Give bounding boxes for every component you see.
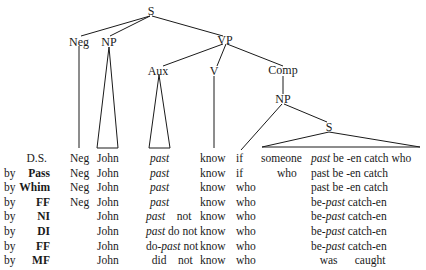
embedded-cell: was caught: [311, 253, 385, 267]
embedded-cell: past be -en catch: [311, 166, 388, 180]
np-cell: John: [97, 195, 119, 209]
by-label: by: [4, 166, 16, 180]
verb-cell: know: [200, 224, 226, 238]
rule-label: Pass: [28, 166, 50, 180]
comp-cell: who: [236, 180, 256, 194]
comp-cell: who: [236, 253, 256, 267]
derivation-row: byNIJohnpast notknowwhobe-past catch-en: [0, 209, 426, 223]
by-label: by: [4, 195, 16, 209]
node-np-comp: NP: [275, 93, 290, 105]
by-label: by: [4, 253, 16, 267]
verb-cell: know: [200, 195, 226, 209]
verb-cell: know: [200, 209, 226, 223]
by-label: by: [4, 180, 16, 194]
aux-cell: past: [150, 195, 169, 209]
comp-cell: who: [236, 224, 256, 238]
aux-cell: did not: [146, 253, 193, 267]
aux-cell: past: [150, 180, 169, 194]
aux-cell: past: [150, 166, 169, 180]
derivation-row: D.S.NegJohnpastknowifsomeonepast be -en …: [0, 151, 426, 165]
node-neg: Neg: [69, 36, 89, 48]
rule-label: Whim: [19, 180, 50, 194]
embedded-cell: be-past catch-en: [311, 239, 387, 253]
aux-cell: past not: [146, 209, 191, 223]
embedded-cell: be-past catch-en: [311, 195, 387, 209]
comp-cell: if: [236, 151, 243, 165]
neg-cell: Neg: [70, 166, 89, 180]
derivation-row: byFFNegJohnpastknowwhobe-past catch-en: [0, 195, 426, 209]
derivation-row: byDIJohnpast do notknowwhobe-past catch-…: [0, 224, 426, 238]
comp-cell: if: [236, 166, 243, 180]
rule-label: FF: [36, 195, 50, 209]
verb-cell: know: [200, 239, 226, 253]
neg-cell: Neg: [70, 151, 89, 165]
aux-cell: past do not: [146, 224, 197, 238]
node-s-root: S: [148, 5, 155, 17]
node-np: NP: [101, 36, 116, 48]
np-cell: John: [97, 253, 119, 267]
np-cell: John: [97, 209, 119, 223]
derivation-row: byFFJohndo-past notknowwhobe-past catch-…: [0, 239, 426, 253]
node-s-embedded: S: [326, 121, 333, 133]
derivation-row: byWhimNegJohnpastknowwhopast be -en catc…: [0, 180, 426, 194]
verb-cell: know: [200, 151, 226, 165]
derivation-row: byMFJohn did notknowwho was caught: [0, 253, 426, 267]
np-cell: John: [97, 224, 119, 238]
node-vp: VP: [217, 34, 232, 46]
subj-cell: who: [277, 166, 297, 180]
embedded-cell: past be -en catch: [311, 180, 388, 194]
comp-cell: who: [236, 195, 256, 209]
derivation-row: byPassNegJohnpastknowifwhopast be -en ca…: [0, 166, 426, 180]
embedded-cell: be-past catch-en: [311, 224, 387, 238]
by-label: by: [4, 239, 16, 253]
node-aux: Aux: [148, 65, 169, 77]
np-cell: John: [97, 239, 119, 253]
neg-cell: Neg: [70, 180, 89, 194]
np-cell: John: [97, 151, 119, 165]
np-cell: John: [97, 166, 119, 180]
neg-cell: Neg: [70, 195, 89, 209]
embedded-cell: be-past catch-en: [311, 209, 387, 223]
rule-label: MF: [32, 253, 50, 267]
verb-cell: know: [200, 166, 226, 180]
node-v: V: [210, 65, 219, 77]
embedded-cell: past be -en catch who: [311, 151, 411, 165]
rule-label: DI: [37, 224, 50, 238]
comp-cell: who: [236, 239, 256, 253]
verb-cell: know: [200, 253, 226, 267]
comp-cell: who: [236, 209, 256, 223]
by-label: by: [4, 224, 16, 238]
subj-cell: someone: [261, 151, 302, 165]
aux-cell: do-past not: [146, 239, 198, 253]
aux-cell: past: [150, 151, 169, 165]
np-cell: John: [97, 180, 119, 194]
verb-cell: know: [200, 180, 226, 194]
by-label: by: [4, 209, 16, 223]
rule-label: FF: [36, 239, 50, 253]
rule-label: D.S.: [27, 151, 47, 165]
node-comp: Comp: [268, 64, 297, 76]
rule-label: NI: [37, 209, 50, 223]
